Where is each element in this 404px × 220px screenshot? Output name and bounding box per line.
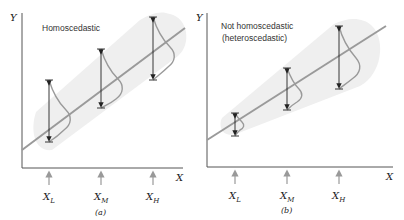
panel-title: Not homoscedastic (heteroscedastic) bbox=[221, 21, 296, 43]
panel-b: Y X Not homoscedastic (heteroscedastic) bbox=[196, 12, 394, 215]
panel-a: Y X Homoscedastic XL bbox=[10, 12, 186, 217]
x-point-xh: XH bbox=[145, 174, 160, 205]
x-point-xh: XH bbox=[331, 173, 346, 204]
x-point-xl: XL bbox=[42, 174, 55, 205]
svg-text:XM: XM bbox=[279, 190, 295, 204]
x-axis-label: X bbox=[385, 171, 394, 182]
variance-band bbox=[33, 12, 186, 150]
svg-text:XL: XL bbox=[228, 190, 241, 204]
panel-caption: (a) bbox=[95, 208, 106, 217]
svg-text:XM: XM bbox=[93, 191, 109, 205]
x-axis-label: X bbox=[175, 172, 184, 183]
y-axis-label: Y bbox=[196, 12, 204, 23]
panel-title: Homoscedastic bbox=[42, 23, 101, 33]
x-point-xm: XM bbox=[93, 174, 109, 205]
x-point-xl: XL bbox=[228, 173, 241, 204]
y-axis-label: Y bbox=[10, 12, 18, 23]
svg-text:XH: XH bbox=[145, 191, 160, 205]
x-point-xm: XM bbox=[279, 173, 295, 204]
panel-caption: (b) bbox=[281, 206, 292, 215]
regression-line bbox=[22, 28, 185, 150]
heteroscedasticity-diagram: Y X Homoscedastic XL bbox=[0, 0, 404, 220]
svg-text:XH: XH bbox=[331, 190, 346, 204]
svg-text:XL: XL bbox=[42, 191, 55, 205]
